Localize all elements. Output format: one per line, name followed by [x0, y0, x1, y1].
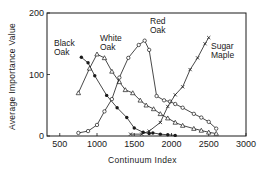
open-circle-marker	[155, 94, 158, 97]
filled-circle-marker	[115, 106, 118, 109]
x-tick-label: 2000	[161, 139, 181, 149]
open-circle-marker	[215, 127, 218, 130]
open-triangle-marker	[95, 52, 99, 56]
chart: 500100015002000250030000100200Continuum …	[0, 0, 270, 171]
y-axis-title: Average Importance Value	[7, 23, 17, 130]
open-circle-marker	[143, 39, 146, 42]
x-tick-label: 1500	[124, 139, 144, 149]
open-circle-marker	[207, 120, 210, 123]
label-white-oak: WhiteOak	[100, 33, 122, 52]
open-circle-marker	[77, 131, 80, 134]
x-marker	[207, 36, 210, 39]
x-axis-title: Continuum Index	[108, 155, 177, 165]
open-circle-marker	[127, 56, 130, 59]
y-tick-label: 0	[39, 131, 44, 141]
open-triangle-marker	[173, 120, 177, 124]
label-sugar-maple: SugarMaple	[211, 41, 234, 60]
open-triangle-marker	[166, 116, 170, 120]
filled-circle-marker	[125, 116, 128, 119]
x-tick-label: 3000	[236, 139, 256, 149]
open-circle-marker	[118, 76, 121, 79]
filled-circle-marker	[174, 134, 177, 137]
open-circle-marker	[174, 102, 177, 105]
open-circle-marker	[147, 48, 150, 51]
open-circle-marker	[86, 129, 89, 132]
filled-circle-marker	[105, 94, 108, 97]
open-circle-marker	[181, 106, 184, 109]
open-circle-marker	[103, 110, 106, 113]
open-triangle-marker	[102, 56, 106, 60]
label-black-oak: BlackOak	[54, 38, 76, 57]
open-circle-marker	[137, 43, 140, 46]
y-tick-label: 100	[29, 70, 44, 80]
x-tick-label: 1000	[87, 139, 107, 149]
filled-circle-marker	[80, 56, 83, 59]
open-circle-marker	[110, 97, 113, 100]
filled-circle-marker	[159, 132, 162, 135]
filled-circle-marker	[133, 126, 136, 129]
open-circle-marker	[192, 112, 195, 115]
series-layer	[76, 36, 218, 137]
series-white-oak	[76, 52, 218, 135]
open-triangle-marker	[76, 91, 80, 95]
filled-circle-marker	[166, 133, 169, 136]
series-black-oak	[80, 56, 177, 138]
filled-circle-marker	[93, 74, 96, 77]
x-tick-label: 2500	[199, 139, 219, 149]
series-sugar-maple	[129, 36, 210, 136]
axes: 500100015002000250030000100200Continuum …	[7, 8, 256, 165]
open-triangle-marker	[151, 107, 155, 111]
x-marker	[196, 56, 199, 59]
label-red-oak: RedOak	[150, 16, 166, 35]
x-marker	[189, 68, 192, 71]
open-circle-marker	[95, 123, 98, 126]
x-marker	[181, 85, 184, 88]
series-line	[78, 41, 216, 133]
x-marker	[174, 93, 177, 96]
open-circle-marker	[162, 99, 165, 102]
x-tick-label: 500	[52, 139, 67, 149]
filled-circle-marker	[151, 131, 154, 134]
open-triangle-marker	[110, 69, 114, 73]
open-circle-marker	[200, 116, 203, 119]
x-marker	[166, 105, 169, 108]
plot-frame	[47, 13, 246, 136]
y-tick-label: 200	[29, 8, 44, 18]
x-marker	[159, 121, 162, 124]
filled-circle-marker	[86, 61, 89, 64]
series-labels: BlackOakWhiteOakRedOakSugarMaple	[54, 16, 234, 60]
x-marker	[203, 42, 206, 45]
